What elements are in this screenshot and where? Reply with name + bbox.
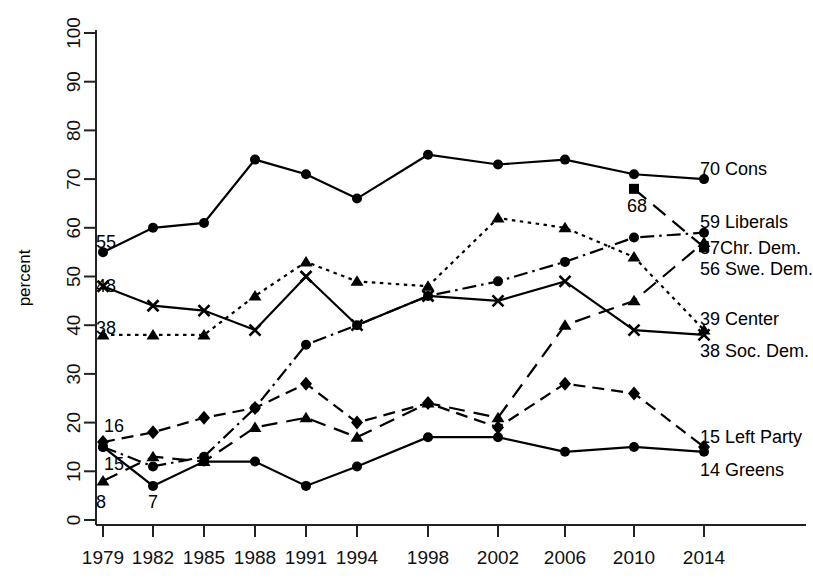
y-tick-label: 20 [63,412,84,433]
annotation-48: 48 [96,276,116,296]
data-point-marker [199,218,209,228]
end-label-soc-dem: 38 Soc. Dem. [700,341,809,361]
data-point-marker [423,432,433,442]
y-tick-label: 100 [63,17,84,49]
y-tick-label: 10 [63,461,84,482]
annotation-55: 55 [96,232,116,252]
data-point-marker [560,447,570,457]
end-label-cons: 70 Cons [700,159,767,179]
data-point-marker [352,461,362,471]
x-tick-label: 1991 [285,547,327,568]
x-tick-label: 2002 [477,547,519,568]
data-point-marker [250,155,260,165]
data-point-marker [560,257,570,267]
annotation-15: 15 [104,454,124,474]
data-point-marker [423,150,433,160]
y-axis-title: percent [15,249,34,306]
end-label-liberals: 59 Liberals [700,212,788,232]
end-label-left-party: 15 Left Party [700,427,802,447]
y-tick-label: 30 [63,363,84,384]
y-tick-label: 40 [63,315,84,336]
end-label-swe-dem: 56 Swe. Dem. [700,259,813,279]
x-tick-label: 2006 [544,547,586,568]
x-tick-label: 1988 [234,547,276,568]
data-point-marker [250,457,260,467]
x-tick-label: 1979 [82,547,124,568]
end-label-center: 39 Center [700,309,779,329]
data-point-marker [493,276,503,286]
x-tick-label: 2014 [683,547,726,568]
x-tick-label: 1985 [183,547,225,568]
data-point-marker [301,481,311,491]
annotation-68: 68 [627,196,647,216]
data-point-marker [352,194,362,204]
annotation-8: 8 [96,492,106,512]
chart-root: 0102030405060708090100percent19791982198… [0,0,813,586]
data-point-marker [493,432,503,442]
data-point-marker [148,461,158,471]
x-tick-label: 1994 [336,547,379,568]
y-tick-label: 80 [63,120,84,141]
x-tick-label: 1998 [407,547,449,568]
data-point-marker [98,442,108,452]
y-tick-label: 90 [63,71,84,92]
annotation-7: 7 [148,492,158,512]
y-tick-label: 70 [63,169,84,190]
annotation-16: 16 [104,416,124,436]
end-label-chr-dem: 57Chr. Dem. [700,238,801,258]
annotation-38: 38 [96,318,116,338]
data-point-marker [199,457,209,467]
y-tick-label: 60 [63,217,84,238]
data-point-marker [301,169,311,179]
data-point-marker [629,169,639,179]
x-tick-label: 1982 [132,547,174,568]
y-tick-label: 50 [63,266,84,287]
data-point-marker [148,481,158,491]
line-chart: 0102030405060708090100percent19791982198… [0,0,813,586]
end-label-greens: 14 Greens [700,460,784,480]
data-point-marker [629,233,639,243]
x-tick-label: 2010 [613,547,655,568]
data-point-marker [629,184,639,194]
data-point-marker [148,223,158,233]
data-point-marker [301,340,311,350]
data-point-marker [629,442,639,452]
y-tick-label: 0 [63,515,84,526]
data-point-marker [560,155,570,165]
data-point-marker [493,159,503,169]
data-point-marker [699,447,709,457]
